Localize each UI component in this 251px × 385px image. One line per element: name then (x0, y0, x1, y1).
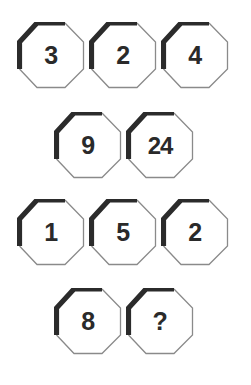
octagon-cell-label: 9 (54, 112, 122, 179)
octagon-cell-label: 1 (17, 199, 85, 266)
octagon-cell: 1 (17, 199, 85, 266)
octagon-cell-label: 8 (54, 288, 122, 355)
octagon-cell-label: 5 (89, 199, 157, 266)
octagon-cell-label: 2 (89, 22, 157, 89)
octagon-cell: 3 (17, 22, 85, 89)
octagon-cell: ? (126, 288, 194, 355)
octagon-cell: 4 (161, 22, 229, 89)
puzzle-board: 3249241528? (0, 0, 251, 385)
octagon-cell-label: 4 (161, 22, 229, 89)
octagon-cell-label: 2 (161, 199, 229, 266)
octagon-cell: 5 (89, 199, 157, 266)
octagon-cell: 8 (54, 288, 122, 355)
octagon-cell: 2 (161, 199, 229, 266)
octagon-cell-label: 24 (126, 112, 194, 179)
octagon-cell: 2 (89, 22, 157, 89)
octagon-cell-label: 3 (17, 22, 85, 89)
octagon-cell: 9 (54, 112, 122, 179)
octagon-cell-label: ? (126, 288, 194, 355)
octagon-cell: 24 (126, 112, 194, 179)
